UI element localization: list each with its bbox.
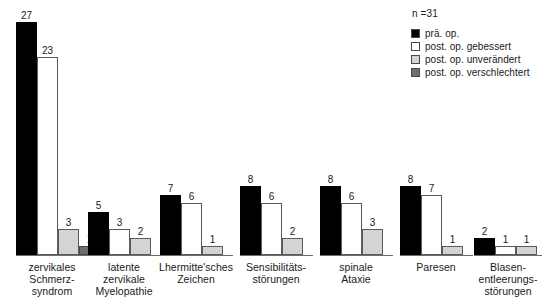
bar-value-label: 3: [66, 217, 72, 228]
bar: [282, 238, 303, 255]
bar-slot: 6: [341, 203, 362, 255]
bar-value-label: 6: [189, 191, 195, 202]
bar-slot: 3: [58, 229, 79, 255]
category-label: Blasen- entleerungs- störungen: [458, 261, 546, 298]
bar-value-label: 2: [290, 226, 296, 237]
bar: [495, 246, 516, 255]
bar: [16, 22, 37, 255]
bar-value-label: 5: [96, 200, 102, 211]
bar-slot: 1: [495, 246, 516, 255]
plot-area: 272331zervikales Schmerz- syndrom532late…: [0, 0, 546, 307]
bar: [474, 238, 495, 255]
category-axis-line: [320, 255, 393, 256]
bar: [130, 238, 151, 255]
bar-chart: n =31 prä. op.post. op. gebessertpost. o…: [0, 0, 546, 307]
bar-stack: 862: [240, 186, 303, 255]
bar-stack: 761: [160, 195, 223, 255]
bar-value-label: 1: [210, 234, 216, 245]
bar-value-label: 2: [138, 226, 144, 237]
bar-value-label: 23: [42, 45, 53, 56]
bar-slot: 6: [261, 203, 282, 255]
bar-value-label: 1: [450, 234, 456, 245]
bar-slot: 3: [109, 229, 130, 255]
bar: [88, 212, 109, 255]
bar-value-label: 2: [482, 226, 488, 237]
bar-value-label: 1: [503, 234, 509, 245]
bar-slot: 23: [37, 57, 58, 255]
bar-value-label: 3: [117, 217, 123, 228]
bar: [109, 229, 130, 255]
bar-value-label: 6: [349, 191, 355, 202]
category-axis-line: [474, 255, 542, 256]
bar-stack: 871: [400, 186, 463, 255]
bar-value-label: 3: [370, 217, 376, 228]
bar-stack: 863: [320, 186, 383, 255]
bar-slot: 8: [400, 186, 421, 255]
bar: [341, 203, 362, 255]
bar: [400, 186, 421, 255]
bar-slot: 8: [240, 186, 261, 255]
bar-value-label: 7: [429, 183, 435, 194]
bar: [160, 195, 181, 255]
bar-slot: 6: [181, 203, 202, 255]
bar-value-label: 7: [168, 183, 174, 194]
bar-slot: 2: [474, 238, 495, 255]
category-axis-line: [16, 255, 89, 256]
bar: [362, 229, 383, 255]
bar-value-label: 6: [269, 191, 275, 202]
bar-slot: 2: [282, 238, 303, 255]
bar-value-label: 8: [408, 174, 414, 185]
bar-slot: 27: [16, 22, 37, 255]
bar: [240, 186, 261, 255]
category-axis-line: [240, 255, 313, 256]
category-axis-line: [88, 255, 161, 256]
bar-slot: 2: [130, 238, 151, 255]
bar: [58, 229, 79, 255]
bar-slot: 1: [202, 246, 223, 255]
bar: [37, 57, 58, 255]
bar: [181, 203, 202, 255]
bar: [421, 195, 442, 255]
bar-slot: 3: [362, 229, 383, 255]
bar-slot: 7: [421, 195, 442, 255]
bar: [516, 246, 537, 255]
bar-stack: 211: [474, 238, 537, 255]
bar-slot: 5: [88, 212, 109, 255]
bar-value-label: 1: [524, 234, 530, 245]
category-axis-line: [160, 255, 233, 256]
bar: [202, 246, 223, 255]
bar-slot: 7: [160, 195, 181, 255]
bar-value-label: 8: [248, 174, 254, 185]
bar-value-label: 27: [21, 10, 32, 21]
bar: [442, 246, 463, 255]
bar: [261, 203, 282, 255]
category-axis-line: [400, 255, 473, 256]
bar-slot: 1: [516, 246, 537, 255]
bar-value-label: 8: [328, 174, 334, 185]
bar-slot: 1: [442, 246, 463, 255]
bar: [320, 186, 341, 255]
bar-slot: 8: [320, 186, 341, 255]
bar-stack: 532: [88, 212, 151, 255]
